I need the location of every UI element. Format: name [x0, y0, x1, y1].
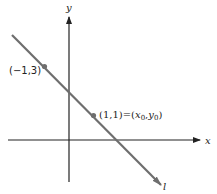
point-1-1: [91, 113, 96, 118]
point-1-1-label: (1,1)=(x0,y0): [99, 109, 162, 122]
x-axis-label: x: [205, 135, 211, 146]
y-axis-label: y: [65, 2, 72, 13]
point-neg1-3: [42, 64, 47, 69]
coordinate-diagram: x y l (−1,3) (1,1)=(x0,y0): [0, 0, 217, 194]
line-l-label: l: [163, 181, 166, 192]
point-neg1-3-label: (−1,3): [9, 65, 41, 76]
